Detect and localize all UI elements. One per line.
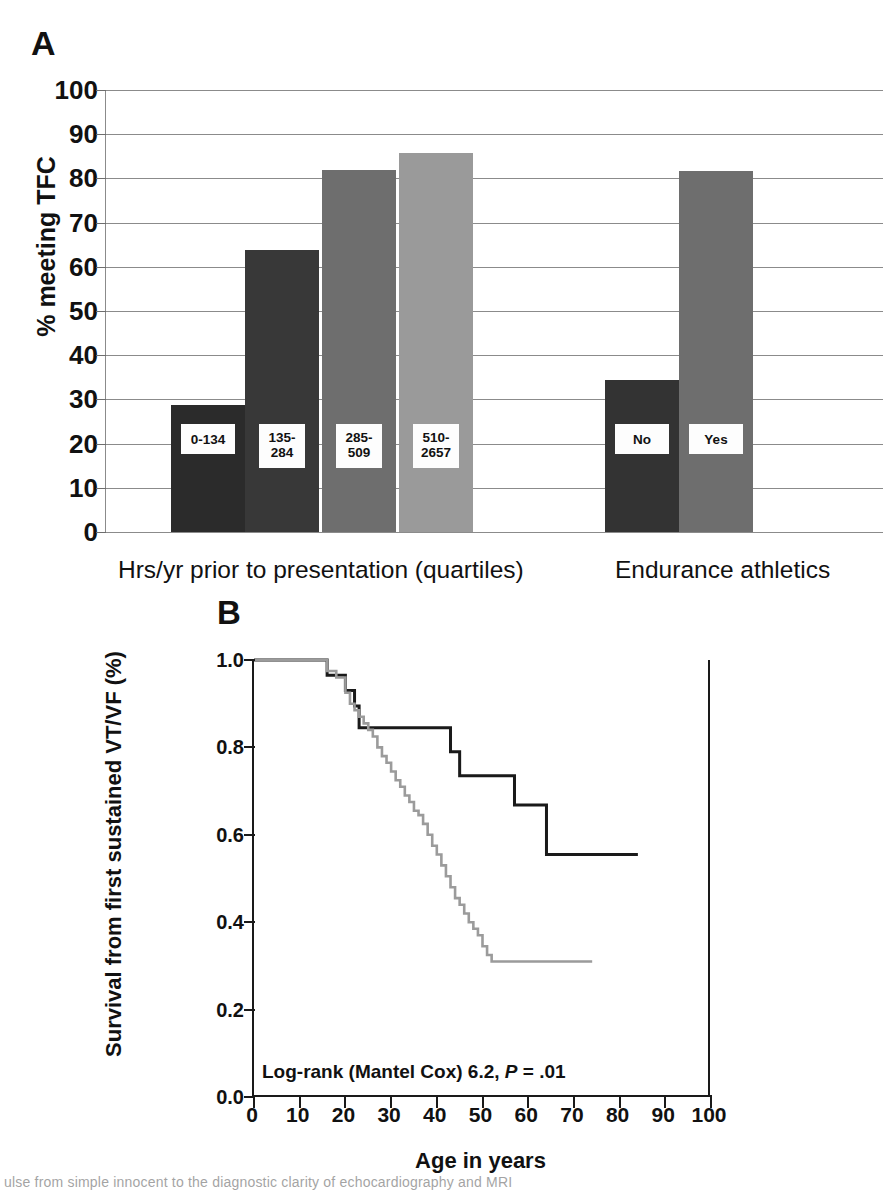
annotation-p-italic: P xyxy=(505,1061,518,1082)
panel-a-gridline xyxy=(105,532,883,533)
panel-b: B 1.00.80.60.40.20.0 Survival from first… xyxy=(0,596,887,1195)
panel-a-bar[interactable] xyxy=(605,380,679,532)
panel-a-gridline xyxy=(105,134,883,135)
panel-b-y-tick-label: 0.2 xyxy=(190,1000,244,1020)
panel-b-logrank-annotation: Log-rank (Mantel Cox) 6.2, P = .01 xyxy=(262,1061,566,1083)
panel-b-x-tick-label: 0 xyxy=(246,1104,258,1125)
panel-a-y-tick-label: 100 xyxy=(40,77,98,103)
panel-a-bar-label: 510- 2657 xyxy=(413,424,459,468)
panel-b-y-tick-label: 1.0 xyxy=(190,650,244,670)
panel-a-y-tickmark xyxy=(96,532,106,533)
panel-b-x-tick-label: 100 xyxy=(691,1104,726,1125)
panel-b-x-tick-label: 50 xyxy=(469,1104,492,1125)
panel-a-y-tick-label: 0 xyxy=(40,519,98,545)
panel-b-y-tickmark xyxy=(244,746,255,748)
panel-b-x-tick-label: 10 xyxy=(286,1104,309,1125)
panel-a-gridline xyxy=(105,267,883,268)
panel-a-y-tickmark xyxy=(96,178,106,179)
panel-b-y-tick-label: 0.8 xyxy=(190,737,244,757)
panel-b-x-tick-label: 70 xyxy=(560,1104,583,1125)
annotation-suffix: = .01 xyxy=(518,1061,566,1082)
panel-a-y-tickmark xyxy=(96,267,106,268)
panel-b-x-tick-label: 40 xyxy=(423,1104,446,1125)
panel-a-bar[interactable] xyxy=(245,250,319,532)
panel-a-bar[interactable] xyxy=(322,170,396,532)
survival-curve-athlete xyxy=(254,660,592,962)
panel-a-bar-label: 135- 284 xyxy=(259,424,305,468)
panel-a-x-category-label: Endurance athletics xyxy=(615,556,830,584)
panel-a-y-axis-label: % meeting TFC xyxy=(32,117,61,377)
panel-a-bar[interactable] xyxy=(679,171,753,532)
panel-b-x-tick-label: 20 xyxy=(332,1104,355,1125)
panel-a-gridline xyxy=(105,178,883,179)
panel-a-y-tickmark xyxy=(96,223,106,224)
panel-b-y-tick-label: 0.6 xyxy=(190,825,244,845)
panel-a-bar-label: 0-134 xyxy=(181,424,235,454)
panel-b-x-tick-label: 30 xyxy=(377,1104,400,1125)
panel-a-y-tickmark xyxy=(96,134,106,135)
panel-a: A 1009080706050403020100 % meeting TFC 0… xyxy=(0,0,887,620)
panel-a-plot-area: 0-134135- 284285- 509510- 2657NoYes xyxy=(105,90,883,532)
panel-a-bar-label: No xyxy=(615,424,669,454)
panel-a-y-tickmark xyxy=(96,444,106,445)
panel-a-y-tick-label: 30 xyxy=(40,386,98,412)
panel-b-y-tick-label: 0.0 xyxy=(190,1087,244,1107)
panel-b-plot-area xyxy=(252,660,709,1097)
panel-a-gridline xyxy=(105,355,883,356)
panel-a-y-tickmark xyxy=(96,311,106,312)
figure-container: A 1009080706050403020100 % meeting TFC 0… xyxy=(0,0,887,1195)
panel-b-x-axis-label: Age in years xyxy=(252,1148,709,1174)
panel-a-y-tickmark xyxy=(96,488,106,489)
panel-b-survival-curves xyxy=(254,660,711,1097)
panel-a-y-tickmark xyxy=(96,90,106,91)
panel-b-y-tickmark xyxy=(244,834,255,836)
panel-a-y-tick-label: 10 xyxy=(40,475,98,501)
panel-a-gridline xyxy=(105,399,883,400)
panel-b-y-tickmark xyxy=(244,921,255,923)
panel-a-y-tickmark xyxy=(96,355,106,356)
scan-artifact-text: ulse from simple innocent to the diagnos… xyxy=(4,1176,512,1190)
panel-b-x-tick-label: 60 xyxy=(515,1104,538,1125)
panel-a-y-tickmark xyxy=(96,399,106,400)
panel-a-y-tick-label: 20 xyxy=(40,431,98,457)
annotation-prefix: Log-rank (Mantel Cox) 6.2, xyxy=(262,1061,505,1082)
survival-curve-non-athlete xyxy=(254,660,638,854)
panel-b-y-tick-labels: 1.00.80.60.40.20.0 xyxy=(186,596,244,1195)
panel-b-y-tickmark xyxy=(244,659,255,661)
panel-a-gridline xyxy=(105,223,883,224)
scan-edge-artifact: ulse from simple innocent to the diagnos… xyxy=(0,1176,887,1195)
panel-b-right-border xyxy=(708,660,710,1097)
panel-a-bar[interactable] xyxy=(399,153,473,532)
panel-b-x-tick-label: 80 xyxy=(606,1104,629,1125)
panel-a-gridline xyxy=(105,90,883,91)
panel-a-bar-label: Yes xyxy=(689,424,743,454)
panel-b-y-tick-label: 0.4 xyxy=(190,912,244,932)
panel-a-bar-label: 285- 509 xyxy=(336,424,382,468)
panel-a-x-category-label: Hrs/yr prior to presentation (quartiles) xyxy=(118,556,524,584)
panel-a-gridline xyxy=(105,311,883,312)
panel-b-x-tick-label: 90 xyxy=(652,1104,675,1125)
panel-b-y-tickmark xyxy=(244,1009,255,1011)
panel-b-y-axis-label: Survival from first sustained VT/VF (%) xyxy=(101,644,127,1064)
